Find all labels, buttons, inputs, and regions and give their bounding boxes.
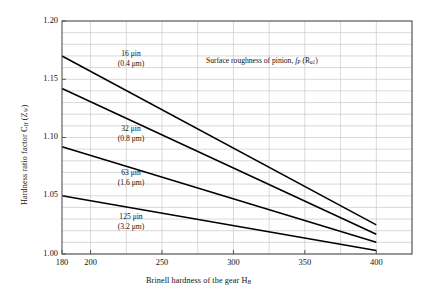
note-mid: (R [301, 56, 311, 65]
annotation-surface-roughness: Surface roughness of pinion, fP (Ra1) [206, 56, 318, 66]
x-tick-label-250: 250 [148, 258, 176, 267]
y-tick-label-1.00: 1.00 [30, 249, 58, 258]
y-axis-title-text: Hardness ratio factor C [20, 127, 29, 205]
series-label-16uin-line1: 16 μin [100, 49, 162, 59]
note-close: ) [315, 56, 318, 65]
y-axis-title-sub: H [23, 122, 29, 126]
y-tick-label-1.15: 1.15 [30, 74, 58, 83]
x-tick-label-300: 300 [219, 258, 247, 267]
series-label-63uin-line1: 63 μin [100, 168, 162, 178]
x-tick-label-180: 180 [48, 258, 76, 267]
series-label-32uin-line1: 32 μin [100, 124, 162, 134]
x-tick-label-400: 400 [362, 258, 390, 267]
series-label-16uin-line2: (0.4 μm) [100, 59, 162, 69]
series-label-63uin: 63 μin (1.6 μm) [100, 168, 162, 188]
x-tick-label-350: 350 [291, 258, 319, 267]
y-tick-label-1.20: 1.20 [30, 16, 58, 25]
series-label-63uin-line2: (1.6 μm) [100, 178, 162, 188]
x-axis-title: Brinell hardness of the gear HB [146, 276, 251, 285]
series-label-32uin: 32 μin (0.8 μm) [100, 124, 162, 144]
series-label-125uin-line2: (3.2 μm) [100, 222, 162, 232]
chart-canvas [0, 0, 428, 296]
y-tick-label-1.10: 1.10 [30, 132, 58, 141]
series-label-32uin-line2: (0.8 μm) [100, 134, 162, 144]
x-tick-label-200: 200 [77, 258, 105, 267]
x-axis-title-sub: B [247, 279, 251, 285]
series-label-125uin: 125 μin (3.2 μm) [100, 212, 162, 232]
x-axis-title-text: Brinell hardness of the gear H [146, 276, 247, 285]
series-label-125uin-line1: 125 μin [100, 212, 162, 222]
y-axis-title-close: ) [20, 105, 29, 108]
y-axis-title-sub2: W [23, 108, 29, 113]
chart-figure: Hardness ratio factor CH (ZW) Brinell ha… [0, 0, 428, 296]
y-tick-label-1.05: 1.05 [30, 190, 58, 199]
y-axis-title-tail: (Z [20, 112, 29, 122]
note-prefix: Surface roughness of pinion, [206, 56, 295, 65]
y-axis-title: Hardness ratio factor CH (ZW) [20, 105, 29, 205]
series-label-16uin: 16 μin (0.4 μm) [100, 49, 162, 69]
